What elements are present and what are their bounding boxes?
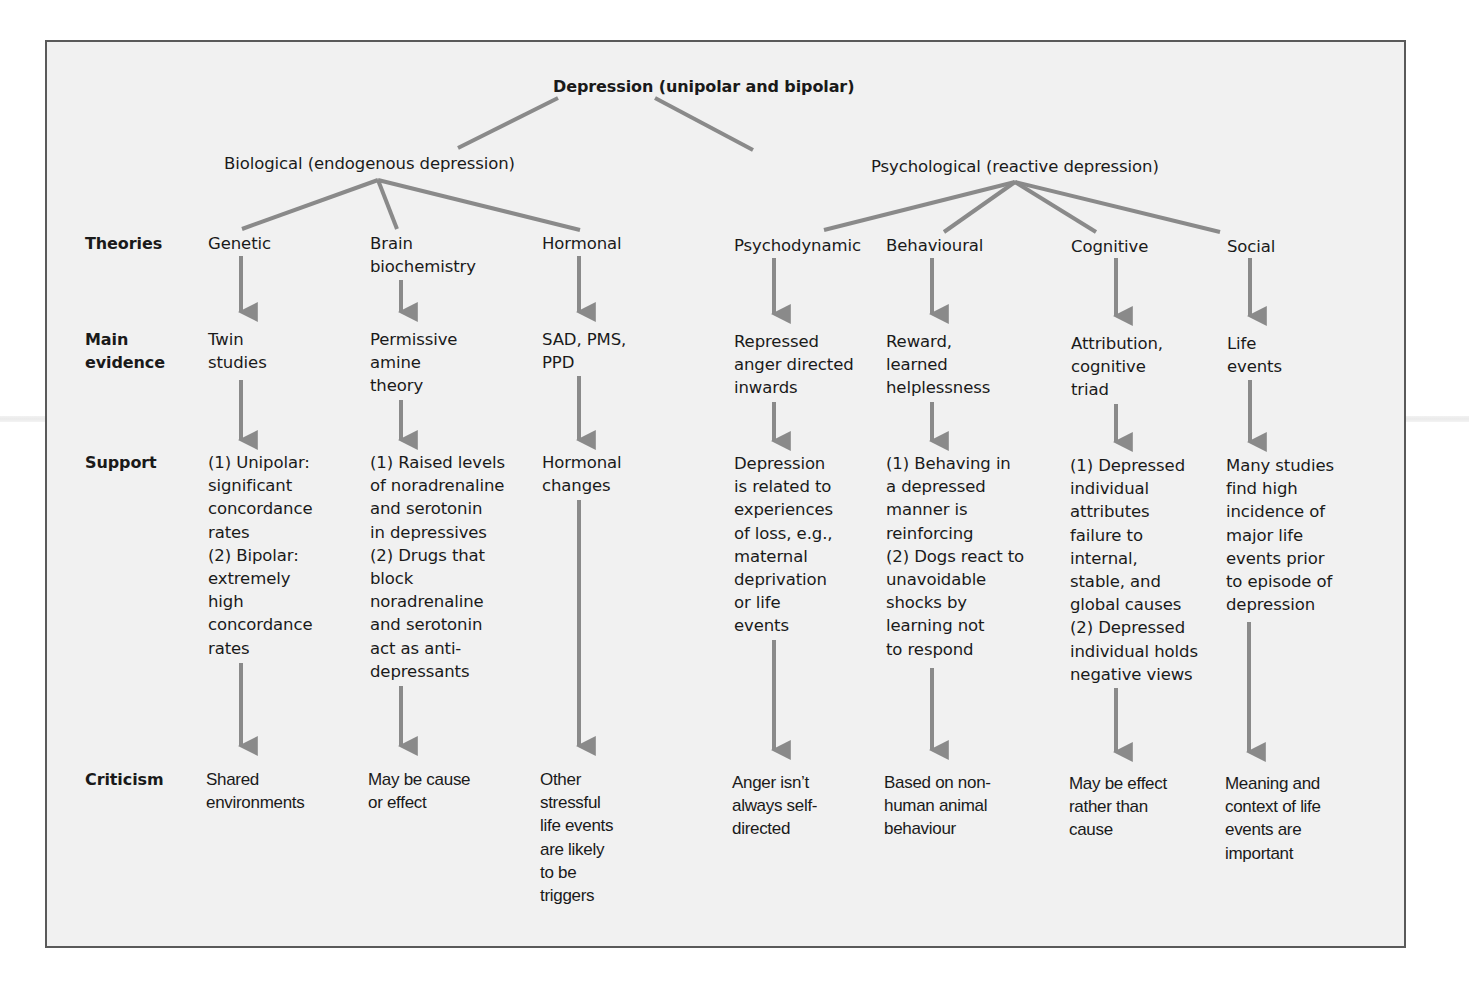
branch-biological: Biological (endogenous depression) [224, 152, 515, 175]
psy-to-psychodynamic-line [824, 182, 1015, 230]
support-hormonal: Hormonal changes [542, 451, 622, 497]
support-brain-biochemistry: (1) Raised levels of noradrenaline and s… [370, 451, 505, 683]
support-genetic: (1) Unipolar: significant concordance ra… [208, 451, 312, 660]
psy-to-social-line [1015, 182, 1220, 232]
support-cognitive: (1) Depressed individual attributes fail… [1070, 454, 1198, 686]
theory-social: Social [1227, 235, 1275, 258]
row-label-main-evidence: Main evidence [85, 328, 165, 374]
evidence-cognitive: Attribution, cognitive triad [1071, 332, 1163, 402]
bio-to-brain-line [378, 180, 397, 229]
criticism-social: Meaning and context of life events are i… [1225, 772, 1321, 865]
evidence-brain-biochemistry: Permissive amine theory [370, 328, 457, 398]
evidence-genetic: Twin studies [208, 328, 267, 374]
support-behavioural: (1) Behaving in a depressed manner is re… [886, 452, 1024, 661]
criticism-psychodynamic: Anger isn’t always self- directed [732, 771, 817, 841]
criticism-cognitive: May be effect rather than cause [1069, 772, 1167, 842]
criticism-hormonal: Other stressful life events are likely t… [540, 768, 613, 907]
evidence-hormonal: SAD, PMS, PPD [542, 328, 626, 374]
criticism-genetic: Shared environments [206, 768, 304, 814]
root-to-biological-line [458, 98, 558, 148]
theory-hormonal: Hormonal [542, 232, 622, 255]
theory-cognitive: Cognitive [1071, 235, 1148, 258]
row-label-theories: Theories [85, 232, 162, 255]
evidence-social: Life events [1227, 332, 1282, 378]
theory-genetic: Genetic [208, 232, 271, 255]
row-label-support: Support [85, 451, 157, 474]
theory-behavioural: Behavioural [886, 234, 983, 257]
theory-psychodynamic: Psychodynamic [734, 234, 861, 257]
root-node: Depression (unipolar and bipolar) [553, 75, 854, 98]
support-social: Many studies find high incidence of majo… [1226, 454, 1334, 616]
evidence-psychodynamic: Repressed anger directed inwards [734, 330, 854, 400]
criticism-brain-biochemistry: May be cause or effect [368, 768, 470, 814]
psy-to-cognitive-line [1015, 182, 1096, 232]
bio-to-hormonal-line [378, 180, 580, 230]
evidence-behavioural: Reward, learned helplessness [886, 330, 990, 400]
support-psychodynamic: Depression is related to experiences of … [734, 452, 833, 638]
theory-brain-biochemistry: Brain biochemistry [370, 232, 476, 278]
row-label-criticism: Criticism [85, 768, 164, 791]
bio-to-genetic-line [242, 180, 378, 229]
root-to-psychological-line [655, 98, 753, 150]
branch-psychological: Psychological (reactive depression) [871, 155, 1159, 178]
criticism-behavioural: Based on non- human animal behaviour [884, 771, 991, 841]
